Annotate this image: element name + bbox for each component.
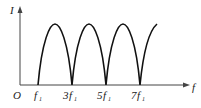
- svg-text:1: 1: [142, 96, 145, 102]
- y-axis-label: I: [9, 4, 15, 16]
- svg-text:1: 1: [39, 96, 42, 102]
- response-curve: [38, 24, 157, 85]
- tick-label-3f1: 3 f 1: [62, 89, 77, 102]
- x-axis-arrow-icon: [183, 83, 190, 88]
- svg-text:1: 1: [108, 96, 111, 102]
- origin-label: O: [13, 89, 21, 101]
- y-axis-arrow-icon: [18, 6, 23, 13]
- svg-text:3: 3: [62, 89, 69, 101]
- tick-label-5f1: 5 f 1: [97, 89, 111, 102]
- chart-canvas: I f O f 1 3 f 1 5 f 1 7 f 1: [0, 0, 201, 108]
- x-axis-label: f: [192, 81, 197, 93]
- tick-label-7f1: 7 f 1: [131, 89, 145, 102]
- svg-text:1: 1: [74, 96, 77, 102]
- tick-label-f1: f 1: [34, 89, 42, 102]
